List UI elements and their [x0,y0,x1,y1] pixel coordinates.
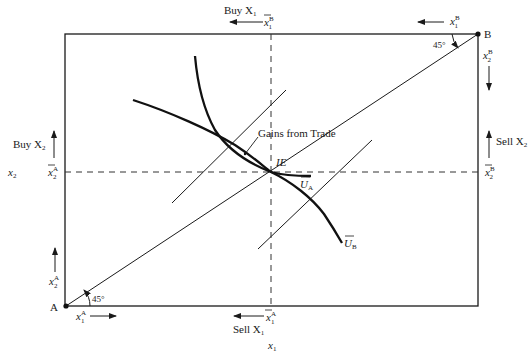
indifference-curve-B [195,56,342,243]
x1-variable-label: x1 [267,339,277,353]
origin-B-label: B [484,28,491,40]
x2-variable-label: x2 [7,166,17,180]
gains-from-trade-label: Gains from Trade [258,127,336,139]
diagonal-45-line [66,34,478,306]
curve-UB-label: UB [344,237,357,251]
angle-A-label: 45° [92,294,105,304]
angle-B-label: 45° [433,40,446,50]
curve-UA-label: UA [300,178,313,192]
gains-pointer-dot [244,153,246,155]
endowment-x1A-label: xA1 [265,310,276,326]
gains-pointer-line [245,137,258,154]
buy-x2-label: Buy X2 [13,138,46,152]
x2B-axis-label: xB2 [482,48,493,64]
origin-B-dot [475,31,480,36]
sell-x2-label: Sell X2 [496,135,528,149]
x2A-axis-label: xA2 [48,274,59,290]
origin-A-dot [63,303,68,308]
endowment-x1B-label: xB1 [263,15,274,31]
origin-A-label: A [50,301,58,313]
endowment-x2B-label: xB2 [484,165,495,181]
x1A-axis-label: xA1 [75,309,86,325]
initial-endowment-label: IE [275,156,287,168]
angle-arc-B-icon [452,34,458,48]
buy-x1-label: Buy X1 [224,4,257,18]
x1B-axis-label: xB1 [449,14,460,30]
sell-x1-label: Sell X1 [233,323,265,337]
endowment-x2A-label: xA2 [47,165,58,181]
edgeworth-box-diagram: Buy X1 xB1 xB1 B A 45° 45° xB2 Sell X2 x… [0,0,532,354]
